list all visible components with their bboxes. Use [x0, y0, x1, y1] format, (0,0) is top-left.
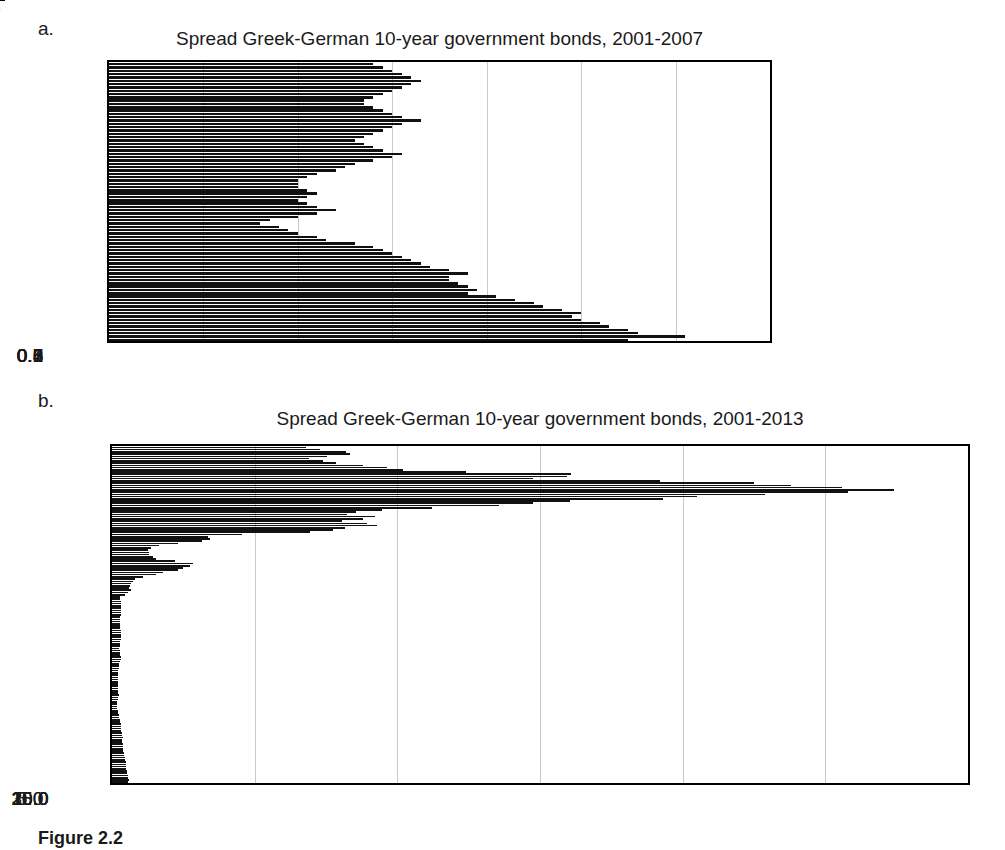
bar: [112, 627, 120, 629]
bar: [109, 113, 392, 115]
bar: [109, 96, 373, 98]
bar: [109, 256, 402, 258]
bar: [112, 511, 356, 513]
bar: [112, 569, 178, 571]
bar: [112, 701, 117, 703]
bar: [112, 514, 347, 516]
bar: [109, 90, 392, 92]
bar: [109, 282, 458, 284]
bar: [112, 688, 118, 690]
bar: [112, 536, 208, 538]
bar: [112, 487, 842, 489]
panel-a-title: Spread Greek-German 10-year government b…: [176, 28, 703, 50]
bar: [112, 478, 533, 480]
bar: [112, 770, 127, 772]
bar: [112, 494, 765, 496]
bar: [112, 652, 120, 654]
bar: [112, 447, 306, 449]
bar: [112, 556, 153, 558]
bar: [112, 755, 124, 757]
bar: [109, 272, 468, 274]
bar: [109, 166, 345, 168]
bar: [112, 545, 159, 547]
bar: [112, 677, 118, 679]
bar: [109, 232, 298, 234]
bar: [112, 456, 327, 458]
bar: [109, 212, 317, 214]
panel-a-plot-area: [107, 60, 772, 343]
bar: [112, 592, 128, 594]
bar: [112, 502, 533, 504]
bar: [112, 719, 120, 721]
bar: [112, 735, 122, 737]
bar: [112, 706, 117, 708]
gridline: [676, 62, 677, 341]
bar: [112, 775, 128, 777]
bar: [109, 183, 298, 185]
bar: [112, 480, 660, 482]
bar: [109, 269, 449, 271]
bar: [109, 285, 468, 287]
bar: [109, 292, 468, 294]
bar: [112, 527, 345, 529]
bar: [112, 750, 123, 752]
bar: [112, 587, 129, 589]
bar: [112, 449, 320, 451]
bar: [109, 252, 392, 254]
y-axis-tick: [0, 0, 5, 1]
bar: [112, 616, 120, 618]
panel-a-letter: a.: [38, 18, 54, 40]
bar: [112, 547, 151, 549]
bar: [109, 173, 317, 175]
bar: [112, 708, 117, 710]
bar: [112, 585, 130, 587]
bar: [109, 143, 364, 145]
bar: [112, 681, 118, 683]
bar: [109, 80, 421, 82]
bar: [112, 781, 128, 783]
bar: [109, 216, 298, 218]
bar: [109, 259, 411, 261]
gridline: [825, 446, 826, 783]
bar: [112, 632, 121, 634]
bar: [109, 312, 581, 314]
bar: [109, 149, 383, 151]
bar: [112, 641, 120, 643]
bar: [112, 558, 156, 560]
bar: [109, 123, 402, 125]
bar: [109, 329, 628, 331]
bar: [112, 473, 571, 475]
bar: [112, 482, 754, 484]
bar: [112, 489, 894, 491]
bar: [112, 607, 121, 609]
bar: [112, 538, 210, 540]
bar: [112, 560, 175, 562]
bar: [109, 302, 534, 304]
bar: [112, 659, 121, 661]
bar: [112, 752, 124, 754]
bar: [109, 139, 355, 141]
bar: [112, 630, 121, 632]
bar: [109, 179, 298, 181]
bar: [112, 679, 118, 681]
bar: [112, 685, 118, 687]
figure-caption: Figure 2.2: [38, 828, 123, 849]
bar: [112, 743, 123, 745]
bar: [112, 737, 123, 739]
bar: [109, 289, 477, 291]
bar: [109, 319, 581, 321]
bar: [112, 625, 120, 627]
bar: [109, 129, 383, 131]
bar: [112, 554, 149, 556]
bar: [109, 109, 383, 111]
bar: [112, 460, 323, 462]
bar: [112, 730, 121, 732]
bar: [109, 99, 364, 101]
bar: [112, 636, 121, 638]
bar: [112, 451, 346, 453]
bar: [112, 764, 126, 766]
bar: [112, 721, 120, 723]
bar: [112, 601, 121, 603]
bar: [109, 199, 298, 201]
bar: [112, 772, 127, 774]
